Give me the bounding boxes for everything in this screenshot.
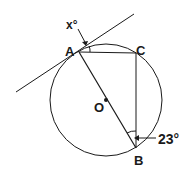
chord-ac	[79, 52, 136, 53]
label-o: O	[94, 100, 104, 115]
geometry-diagram: x° A C O B 23°	[0, 0, 194, 178]
center-point	[104, 98, 108, 102]
label-x: x°	[66, 18, 78, 32]
angle-arc-x	[89, 46, 90, 52]
angle-arc-23	[127, 131, 136, 133]
label-23: 23°	[158, 131, 179, 147]
label-a: A	[65, 44, 75, 59]
label-b: B	[134, 153, 143, 168]
label-c: C	[136, 43, 146, 58]
